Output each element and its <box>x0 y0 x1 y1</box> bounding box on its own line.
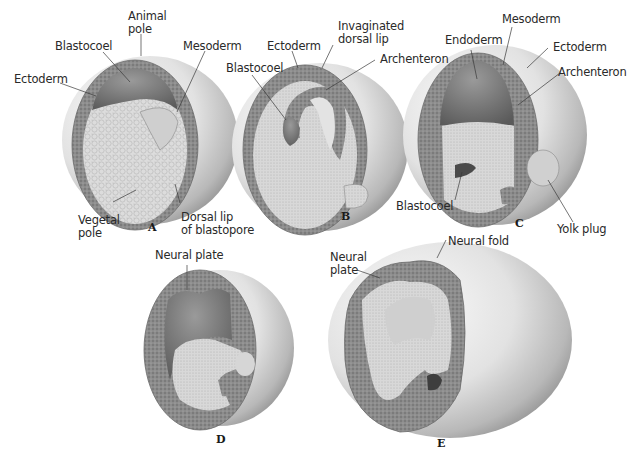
label-e-neural-plate: Neural plate <box>330 251 367 277</box>
label-c-blastocoel: Blastocoel <box>396 200 453 213</box>
label-b-archenteron: Archenteron <box>380 53 449 66</box>
label-c-endoderm: Endoderm <box>445 34 502 47</box>
label-a-dorsal-lip-of-blastopore: Dorsal lip of blastopore <box>181 211 254 237</box>
panel-letter-c: C <box>515 217 524 230</box>
label-c-yolk-plug: Yolk plug <box>557 223 606 236</box>
panel-d-embryo <box>144 270 294 430</box>
label-a-vegetal-pole: Vegetal pole <box>78 214 120 240</box>
label-a-animal-pole: Animal pole <box>128 10 167 36</box>
panel-a-embryo <box>62 56 238 230</box>
label-d-neural-plate: Neural plate <box>155 249 223 262</box>
panel-letter-e: E <box>437 437 445 450</box>
panel-letter-b: B <box>341 210 350 223</box>
panel-b-embryo <box>232 63 408 235</box>
label-b-blastocoel: Blastocoel <box>226 62 283 75</box>
embryo-diagram: Animal pole Blastocoel Mesoderm Ectoderm… <box>0 0 634 463</box>
panel-letter-a: A <box>148 221 157 234</box>
label-c-ectoderm: Ectoderm <box>553 41 607 54</box>
label-b-invaginated-dorsal-lip: Invaginated dorsal lip <box>338 20 404 46</box>
label-e-neural-fold: Neural fold <box>448 235 509 248</box>
label-a-ectoderm: Ectoderm <box>14 73 68 86</box>
label-b-ectoderm: Ectoderm <box>267 40 321 53</box>
label-c-archenteron: Archenteron <box>558 66 627 79</box>
panel-letter-d: D <box>216 433 226 446</box>
label-a-mesoderm: Mesoderm <box>183 40 242 53</box>
label-c-mesoderm: Mesoderm <box>502 13 561 26</box>
label-a-blastocoel: Blastocoel <box>55 40 112 53</box>
